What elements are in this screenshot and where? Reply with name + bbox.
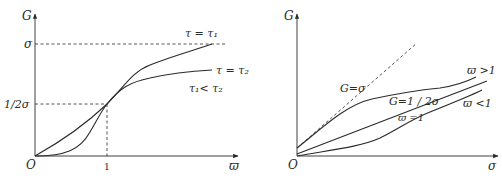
left-x-axis-label: ϖ (229, 159, 240, 173)
left-origin-label: O (26, 158, 36, 172)
right-origin-label: O (288, 158, 298, 172)
right-x-axis-label: σ (488, 159, 497, 173)
tau-relation-annotation: τ₁< τ₂ (189, 82, 223, 95)
left-y-axis-label: G (22, 9, 32, 23)
curve-varpi-greater-1-label: ϖ >1 (467, 64, 496, 77)
curve-tau1 (35, 44, 212, 156)
right-plot: G σ O G=σ ϖ >1 G=1 / 2σ ϖ =1 ϖ <1 (284, 9, 498, 173)
reference-line-label: G=σ (340, 82, 366, 95)
right-y-axis-label: G (284, 9, 294, 23)
x-tick-one: 1 (104, 160, 110, 172)
curve-varpi-less-1-label: ϖ <1 (463, 97, 492, 110)
curve-tau2 (35, 70, 212, 156)
left-plot: G ϖ O σ 1/2σ 1 τ = τ₁ τ = τ₂ τ₁< τ₂ (4, 9, 249, 173)
curve-tau2-label: τ = τ₂ (216, 64, 249, 77)
y-tick-sigma: σ (24, 37, 33, 51)
curve-tau1-label: τ = τ₁ (185, 27, 218, 40)
curve-varpi-greater-1 (297, 77, 476, 148)
curve-g-half-sigma-label: G=1 / 2σ (389, 95, 440, 108)
curve-varpi-equals-1 (297, 81, 487, 154)
curve-varpi-equals-1-label: ϖ =1 (398, 112, 424, 123)
y-tick-half-sigma: 1/2σ (4, 98, 30, 111)
diagram-canvas: G ϖ O σ 1/2σ 1 τ = τ₁ τ = τ₂ τ₁< τ₂ G σ … (0, 0, 502, 178)
